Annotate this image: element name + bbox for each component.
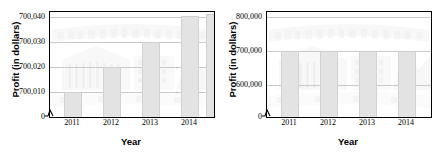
- plot-area-left: [49, 11, 215, 118]
- x-axis-title-right: Year: [266, 136, 430, 147]
- chart-panel-right: Profit (in dollars) 800,000 700,000 600,…: [217, 0, 434, 156]
- y-axis-break-icon-right: [262, 108, 271, 117]
- x-tick-label: 2014: [398, 118, 414, 127]
- x-tick-label: 2012: [103, 118, 119, 127]
- x-tick-label: 2011: [64, 118, 80, 127]
- y-tick-label: 700,040: [19, 12, 45, 21]
- chart-panel-left: Profit (in dollars) 700,040 700,030 700,…: [0, 0, 217, 156]
- y-tick-label: 800,000: [236, 12, 262, 21]
- bar-overflow-right-edge: [206, 14, 215, 117]
- two-panel-bar-chart-figure: Profit (in dollars) 700,040 700,030 700,…: [0, 0, 435, 156]
- x-axis-title-left: Year: [49, 136, 213, 147]
- bar-2011: [64, 92, 82, 117]
- y-tick-label: 700,010: [19, 87, 45, 96]
- y-tick-label: 700,030: [19, 37, 45, 46]
- x-tick-label: 2013: [359, 118, 375, 127]
- y-axis-break-icon-left: [45, 108, 54, 117]
- y-tick-label: 600,000: [236, 80, 262, 89]
- y-axis-tick-labels-left: 700,040 700,030 700,020 700,010 0: [0, 0, 48, 156]
- x-tick-label: 2012: [320, 118, 336, 127]
- plot-area-right: [266, 11, 432, 118]
- x-tick-label: 2014: [181, 118, 197, 127]
- bar-2012: [103, 67, 121, 117]
- x-axis-tick-labels-left: 2011 2012 2013 2014: [49, 118, 213, 132]
- bar-2012: [320, 51, 338, 117]
- x-tick-label: 2013: [142, 118, 158, 127]
- bar-2014: [181, 16, 199, 117]
- bar-2011: [281, 51, 299, 117]
- bar-2013: [359, 51, 377, 117]
- y-axis-tick-labels-right: 800,000 700,000 600,000 0: [217, 0, 265, 156]
- y-tick-label: 700,000: [236, 46, 262, 55]
- y-tick-label: 700,020: [19, 62, 45, 71]
- gridline: [267, 17, 431, 18]
- bar-2013: [142, 42, 160, 117]
- x-tick-label: 2011: [281, 118, 297, 127]
- x-axis-tick-labels-right: 2011 2012 2013 2014: [266, 118, 430, 132]
- bar-2014: [398, 51, 416, 117]
